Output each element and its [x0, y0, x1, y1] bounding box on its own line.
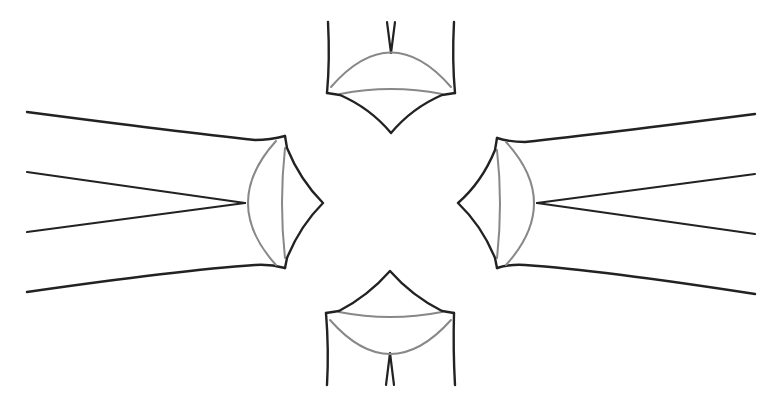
bottom-lens-element	[326, 271, 455, 385]
right-line-4	[497, 265, 755, 294]
bottom-right-wall	[454, 313, 455, 385]
left-line-4	[27, 265, 285, 292]
top-right-wall	[453, 22, 455, 93]
bottom-center-v	[386, 353, 394, 385]
bottom-chord	[339, 312, 442, 317]
bottom-left-wall	[326, 313, 328, 385]
top-tip	[327, 93, 455, 133]
right-lens-element	[458, 114, 755, 294]
bottom-tip	[326, 271, 454, 313]
top-arc	[331, 53, 451, 88]
right-line-1	[497, 114, 755, 142]
diagram-canvas	[0, 0, 780, 410]
top-left-wall	[327, 22, 329, 93]
left-tip	[285, 136, 323, 268]
right-line-3	[537, 203, 755, 234]
right-arc	[506, 142, 534, 265]
left-arc	[248, 141, 276, 265]
right-tip	[458, 138, 497, 268]
bottom-arc	[330, 320, 451, 354]
right-line-2	[537, 174, 755, 203]
left-lens-element	[27, 112, 323, 292]
left-line-2	[27, 172, 245, 203]
top-chord	[340, 89, 442, 94]
left-line-1	[27, 112, 285, 140]
left-chord	[282, 148, 285, 258]
top-lens-element	[327, 22, 455, 133]
right-chord	[497, 150, 500, 258]
top-center-v	[387, 22, 395, 53]
left-line-3	[27, 203, 245, 232]
